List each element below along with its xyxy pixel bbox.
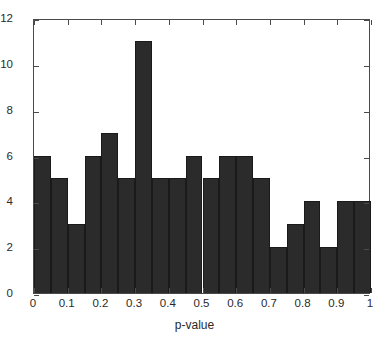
x-axis-tick-top — [169, 20, 170, 25]
x-axis-tick — [270, 288, 271, 293]
x-axis-label: p-value — [0, 318, 389, 332]
histogram-bar — [337, 201, 354, 293]
histogram-bar — [320, 247, 337, 293]
x-axis-tick — [371, 288, 372, 293]
bars-layer — [34, 20, 369, 293]
y-axis-tick-label: 10 — [0, 59, 13, 71]
x-axis-tick — [34, 288, 35, 293]
y-axis-tick-right — [364, 112, 369, 113]
x-axis-tick-top — [371, 20, 372, 25]
histogram-bar — [236, 156, 253, 294]
histogram-bar — [85, 156, 102, 294]
x-axis-tick-top — [68, 20, 69, 25]
x-axis-tick — [68, 288, 69, 293]
x-axis-tick-top — [304, 20, 305, 25]
histogram-bar — [169, 178, 186, 293]
x-axis-tick-top — [337, 20, 338, 25]
x-axis-tick-top — [34, 20, 35, 25]
x-axis-tick-top — [203, 20, 204, 25]
x-axis-tick — [304, 288, 305, 293]
histogram-figure: 024681012 00.10.20.30.40.50.60.70.80.91 … — [0, 0, 389, 342]
histogram-bar — [152, 178, 169, 293]
histogram-bar — [34, 156, 51, 294]
y-axis-tick — [34, 158, 39, 159]
plot-area — [33, 19, 370, 294]
histogram-bar — [354, 201, 371, 293]
y-axis-tick-label: 4 — [0, 196, 13, 208]
histogram-bar — [253, 178, 270, 293]
x-axis-tick-top — [236, 20, 237, 25]
x-axis-tick — [135, 288, 136, 293]
y-axis-tick-label: 8 — [0, 105, 13, 117]
x-axis-tick-top — [270, 20, 271, 25]
histogram-bar — [68, 224, 85, 293]
histogram-bar — [203, 178, 220, 293]
histogram-bar — [304, 201, 321, 293]
y-axis-tick-label: 0 — [0, 288, 13, 300]
y-axis-tick — [34, 295, 39, 296]
y-axis-tick-right — [364, 158, 369, 159]
x-axis-tick — [101, 288, 102, 293]
histogram-bar — [186, 156, 203, 294]
histogram-bar — [135, 41, 152, 293]
histogram-bar — [287, 224, 304, 293]
histogram-bar — [101, 133, 118, 293]
y-axis-tick — [34, 249, 39, 250]
y-axis-tick-label: 6 — [0, 151, 13, 163]
y-axis-tick — [34, 112, 39, 113]
y-axis-tick — [34, 203, 39, 204]
x-axis-tick — [236, 288, 237, 293]
x-axis-tick — [337, 288, 338, 293]
x-axis-tick — [169, 288, 170, 293]
y-axis-tick — [34, 66, 39, 67]
histogram-bar — [270, 247, 287, 293]
histogram-bar — [118, 178, 135, 293]
y-axis-tick-right — [364, 20, 369, 21]
y-axis-tick-right — [364, 203, 369, 204]
histogram-bar — [51, 178, 68, 293]
y-axis-tick-label: 2 — [0, 242, 13, 254]
x-axis-tick-top — [101, 20, 102, 25]
x-axis-tick-label: 1 — [350, 298, 389, 310]
histogram-bar — [219, 156, 236, 294]
x-axis-tick — [203, 288, 204, 293]
y-axis-tick-right — [364, 249, 369, 250]
y-axis-tick-label: 12 — [0, 13, 13, 25]
y-axis-tick-right — [364, 66, 369, 67]
y-axis-tick-right — [364, 295, 369, 296]
x-axis-tick-top — [135, 20, 136, 25]
